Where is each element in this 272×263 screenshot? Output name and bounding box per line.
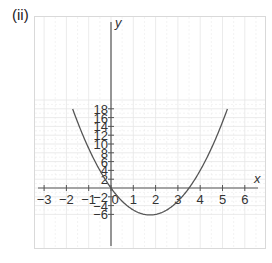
y-tick-label: −2 <box>93 190 108 205</box>
x-tick-label: 4 <box>197 192 204 207</box>
y-tick-label: 18 <box>94 102 108 117</box>
x-tick-label: 1 <box>130 192 137 207</box>
x-tick-label: −3 <box>37 192 52 207</box>
x-tick-label: 6 <box>241 192 248 207</box>
parabola-chart: −3−2−10123456−6−4−224681012141618xy <box>0 0 272 263</box>
x-tick-label: −2 <box>59 192 74 207</box>
x-tick-label: 2 <box>152 192 159 207</box>
plot-frame <box>35 17 266 249</box>
x-tick-label: 5 <box>219 192 226 207</box>
x-axis-label: x <box>253 171 261 186</box>
